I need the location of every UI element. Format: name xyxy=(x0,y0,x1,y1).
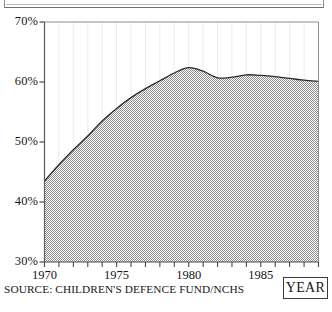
y-tick-label: 40% xyxy=(0,194,38,209)
area-chart-svg xyxy=(0,0,332,312)
y-tick-label: 70% xyxy=(0,14,38,29)
y-tick-label: 60% xyxy=(0,74,38,89)
area-fill xyxy=(45,68,319,262)
x-tick-label: 1980 xyxy=(164,268,214,283)
x-tick-label: 1985 xyxy=(236,268,286,283)
plot-area: 30%40%50%60%70% 1970197519801985 xyxy=(0,0,332,312)
x-tick-label: 1975 xyxy=(92,268,142,283)
y-tick-label: 50% xyxy=(0,134,38,149)
y-tick-label: 30% xyxy=(0,254,38,269)
year-axis-label-box: YEAR xyxy=(283,277,328,299)
source-note: SOURCE: CHILDREN'S DEFENCE FUND/NCHS xyxy=(4,283,244,295)
chart-figure: 30%40%50%60%70% 1970197519801985 SOURCE:… xyxy=(0,0,332,312)
x-tick-label: 1970 xyxy=(20,268,70,283)
